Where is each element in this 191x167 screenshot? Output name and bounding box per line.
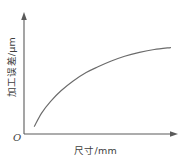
- machining-error-curve: [34, 48, 170, 127]
- y-axis-label-container: 加工误差/μm: [0, 0, 22, 134]
- x-axis-label: 尺寸/mm: [0, 146, 191, 156]
- chart-figure: 加工误差/μm 尺寸/mm O: [0, 0, 191, 167]
- origin-label: O: [13, 133, 21, 143]
- y-axis-arrow-icon: [21, 12, 27, 20]
- x-axis-arrow-icon: [170, 131, 178, 137]
- chart-plot-area: [0, 0, 191, 167]
- y-axis-label: 加工误差/μm: [4, 37, 18, 97]
